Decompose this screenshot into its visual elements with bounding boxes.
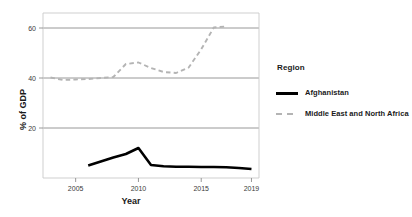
y-axis-ticks: 204060 — [28, 25, 43, 132]
x-axis-ticks: 2005201020152019 — [68, 178, 259, 192]
x-axis-title: Year — [0, 196, 262, 206]
x-tick-label: 2010 — [131, 185, 147, 192]
y-tick-label: 40 — [28, 75, 36, 82]
plot-frame — [43, 13, 259, 178]
legend-swatch-afghanistan — [276, 92, 298, 95]
x-tick-label: 2005 — [68, 185, 84, 192]
y-tick-label: 20 — [28, 125, 36, 132]
series-line-afghanistan — [88, 148, 251, 169]
legend-swatch-middle-east-and-north-africa — [276, 113, 298, 115]
legend-label-middle-east-and-north-africa: Middle East and North Africa — [305, 109, 409, 118]
x-tick-label: 2019 — [244, 185, 260, 192]
gridlines-group — [43, 28, 259, 128]
x-tick-label: 2015 — [193, 185, 209, 192]
chart-container: 2005201020152019 204060 % of GDP Year Re… — [0, 0, 412, 217]
series-line-middle-east-and-north-africa — [51, 27, 227, 81]
legend-label-afghanistan: Afghanistan — [305, 88, 349, 97]
y-axis-title: % of GDP — [18, 89, 28, 130]
legend-title: Region — [277, 63, 305, 72]
y-tick-label: 60 — [28, 25, 36, 32]
data-series-group — [51, 27, 252, 170]
y-axis-title-wrapper: % of GDP — [6, 64, 20, 134]
